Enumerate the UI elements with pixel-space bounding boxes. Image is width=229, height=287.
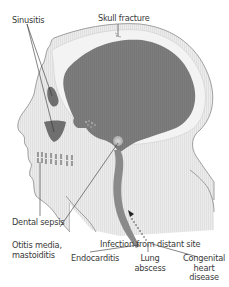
label-lung-abscess: Lung abscess [134, 254, 166, 273]
label-dental-sepsis: Dental sepsis [12, 218, 64, 228]
label-lung-line2: abscess [134, 264, 166, 274]
label-skull-fracture: Skull fracture [98, 14, 150, 24]
label-infection-distant-site: Infection from distant site [100, 240, 200, 250]
label-otitis-media: Otitis media, mastoiditis [12, 241, 62, 260]
middle-ear [113, 136, 123, 146]
label-endocarditis: Endocarditis [71, 254, 119, 264]
label-congenital-heart-disease: Congenital heart disease [180, 254, 228, 283]
label-sinusitis: Sinusitis [12, 16, 44, 26]
label-otitis-line2: mastoiditis [12, 251, 62, 261]
label-congenital-line3: disease [180, 273, 228, 283]
